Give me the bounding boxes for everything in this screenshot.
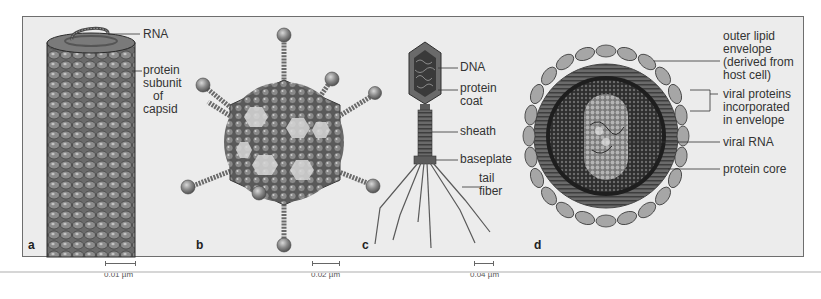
scale-bar-c xyxy=(474,261,494,266)
panel-letter-d: d xyxy=(534,238,541,252)
panel-letter-b: b xyxy=(196,238,203,252)
label-baseplate: baseplate xyxy=(460,153,512,166)
label-viral-rna: viral RNA xyxy=(723,136,774,149)
polyhedral-virus-b xyxy=(181,28,382,252)
label-dna: DNA xyxy=(460,61,485,74)
enveloped-virus-d xyxy=(523,45,720,227)
scale-bar-a xyxy=(105,261,136,266)
label-capsid-line4: capsid xyxy=(143,103,178,116)
panel-letter-a: a xyxy=(28,238,35,252)
page-divider xyxy=(0,271,821,273)
label-protein-coat-line2: coat xyxy=(460,95,483,108)
label-rna: RNA xyxy=(143,28,168,41)
label-protein-core: protein core xyxy=(723,163,786,176)
panel-letter-c: c xyxy=(362,238,369,252)
scale-bar-b xyxy=(312,261,340,266)
helical-virus-a xyxy=(47,28,142,257)
label-tail-fiber-line2: fiber xyxy=(479,185,502,198)
virus-illustrations xyxy=(0,0,821,299)
label-viral-proteins-line3: in envelope xyxy=(723,114,784,127)
label-envelope-line4: host cell) xyxy=(723,69,771,82)
label-sheath: sheath xyxy=(460,125,496,138)
